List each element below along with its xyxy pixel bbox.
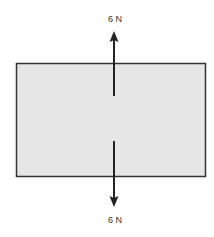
diagram-canvas [0,0,214,237]
up-force-label: 6 N [95,14,135,24]
down-force-label: 6 N [95,215,135,225]
object-box [17,64,206,177]
